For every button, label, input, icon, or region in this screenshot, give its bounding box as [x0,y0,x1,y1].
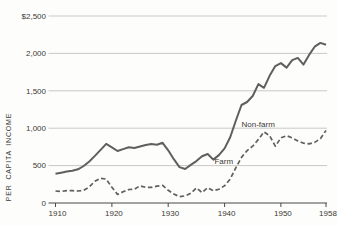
y-tick-label: 1,000 [26,124,47,133]
series-lines [56,43,327,197]
y-axis-title: PER CAPITA INCOME [5,113,12,201]
per-capita-income-chart: 05001,0001,5002,000$2,500 19101920193019… [0,0,337,225]
x-tick-label: 1940 [218,209,236,218]
x-axis: 191019201930194019501958 [49,203,337,218]
x-tick-label: 1920 [105,209,123,218]
y-tick-label: 1,500 [26,87,47,96]
x-tick-label: 1950 [274,209,292,218]
y-tick-label: 2,000 [26,49,47,58]
series-label-nonfarm: Non-farm [242,120,276,129]
y-tick-label: $2,500 [22,12,47,21]
chart-canvas: 05001,0001,5002,000$2,500 19101920193019… [0,0,337,225]
y-tick-label: 0 [42,199,47,208]
gridlines-and-y-labels: 05001,0001,5002,000$2,500 [22,12,327,208]
x-tick-label: 1910 [49,209,67,218]
y-tick-label: 500 [33,161,47,170]
series-labels: Non-farmFarm [214,120,275,166]
series-line-farm [56,130,327,196]
x-tick-label: 1958 [319,209,337,218]
series-line-nonfarm [56,43,327,174]
series-label-farm: Farm [214,157,233,166]
x-tick-label: 1930 [161,209,179,218]
